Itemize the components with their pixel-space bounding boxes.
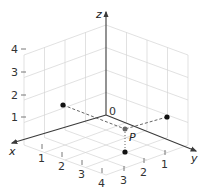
x-tick-3: 3 [78, 168, 85, 181]
point-P [123, 127, 128, 132]
point-xz-projection [60, 102, 65, 107]
origin-label: 0 [109, 105, 116, 118]
z-tick-2: 2 [11, 89, 18, 102]
y-tick-3: 3 [120, 174, 127, 187]
yz-wall-grid [106, 25, 188, 145]
z-axis-label: z [95, 8, 102, 21]
z-tick-3: 3 [11, 66, 18, 79]
y-tick-2: 2 [140, 166, 147, 179]
x-tick-2: 2 [58, 160, 65, 173]
y-tick-1: 1 [161, 158, 168, 171]
x-axis [12, 115, 106, 143]
z-tick-4: 4 [11, 43, 18, 56]
point-yz-projection [164, 114, 169, 119]
point-xy-projection [122, 149, 127, 154]
3d-coordinate-diagram: z x y 0 1 2 3 4 1 2 3 4 1 2 3 P [0, 0, 205, 190]
x-tick-4: 4 [98, 177, 105, 190]
projection-line-yz [125, 117, 167, 129]
x-axis-label: x [8, 145, 16, 158]
y-ticks: 1 2 3 [120, 150, 168, 187]
point-P-label: P [129, 131, 136, 144]
z-tick-1: 1 [11, 111, 18, 124]
y-axis-label: y [190, 152, 198, 165]
x-tick-1: 1 [38, 152, 45, 165]
